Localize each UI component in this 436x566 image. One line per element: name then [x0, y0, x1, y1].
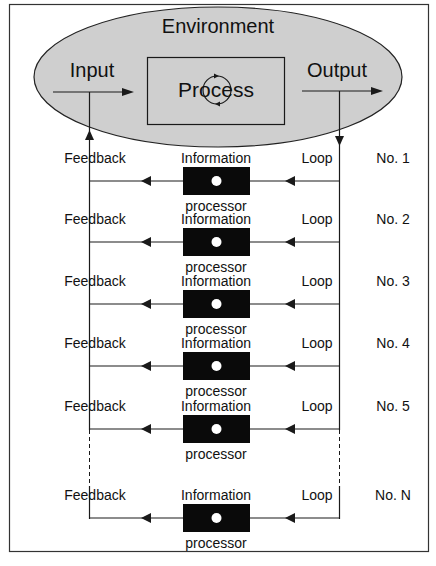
loop-label: Loop — [301, 150, 332, 166]
loop-number-label: No. 5 — [376, 398, 410, 414]
input-label: Input — [70, 59, 115, 81]
loop-number-label: No. 4 — [376, 335, 410, 351]
environment-label: Environment — [162, 15, 275, 37]
output-label: Output — [307, 59, 367, 81]
feedback-loops-diagram: Environment Input Process Output Feedbac… — [0, 0, 436, 566]
loop-number-label: No. N — [375, 487, 411, 503]
processor-dot-icon — [212, 424, 222, 434]
process-label: Process — [178, 78, 254, 101]
processor-label: processor — [185, 383, 247, 399]
processor-label: processor — [185, 535, 247, 551]
feedback-label: Feedback — [64, 398, 126, 414]
processor-dot-icon — [212, 237, 222, 247]
processor-dot-icon — [212, 176, 222, 186]
information-label: Information — [181, 335, 251, 351]
loop-label: Loop — [301, 211, 332, 227]
feedback-label: Feedback — [64, 335, 126, 351]
information-label: Information — [181, 150, 251, 166]
loop-label: Loop — [301, 273, 332, 289]
information-label: Information — [181, 273, 251, 289]
loop-label: Loop — [301, 487, 332, 503]
information-label: Information — [181, 487, 251, 503]
loop-number-label: No. 1 — [376, 150, 410, 166]
feedback-label: Feedback — [64, 150, 126, 166]
processor-dot-icon — [212, 513, 222, 523]
loop-number-label: No. 3 — [376, 273, 410, 289]
feedback-label: Feedback — [64, 487, 126, 503]
feedback-label: Feedback — [64, 211, 126, 227]
information-label: Information — [181, 398, 251, 414]
loop-label: Loop — [301, 335, 332, 351]
processor-dot-icon — [212, 299, 222, 309]
information-label: Information — [181, 211, 251, 227]
feedback-label: Feedback — [64, 273, 126, 289]
processor-dot-icon — [212, 361, 222, 371]
loop-number-label: No. 2 — [376, 211, 410, 227]
loop-label: Loop — [301, 398, 332, 414]
processor-label: processor — [185, 446, 247, 462]
